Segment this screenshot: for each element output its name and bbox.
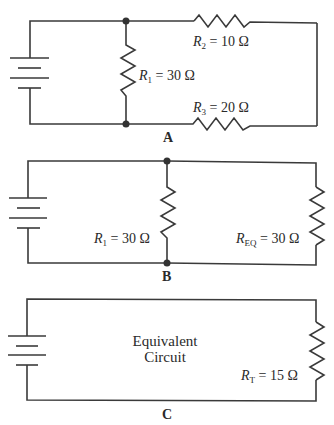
resistor-rt bbox=[310, 322, 324, 380]
node-b-bottom bbox=[164, 260, 171, 267]
resistor-r1-b bbox=[161, 161, 175, 263]
label-r2: R2 = 10 Ω bbox=[193, 35, 249, 51]
node-b-top bbox=[164, 158, 171, 165]
label-req: REQ = 30 Ω bbox=[236, 232, 299, 248]
battery-b bbox=[9, 198, 47, 228]
battery-c bbox=[8, 336, 46, 365]
resistor-r3 bbox=[126, 118, 317, 130]
panel-label-c: C bbox=[162, 408, 172, 422]
label-rt: RT = 15 Ω bbox=[241, 369, 298, 385]
panel-label-b: B bbox=[162, 270, 171, 284]
label-r1-b: R1 = 30 Ω bbox=[94, 232, 150, 248]
circuit-b bbox=[9, 158, 324, 267]
resistor-req bbox=[310, 187, 324, 245]
panel-label-a: A bbox=[163, 131, 173, 145]
resistor-r1-a bbox=[121, 21, 135, 124]
label-r1-a: R1 = 30 Ω bbox=[139, 69, 195, 85]
label-r3: R3 = 20 Ω bbox=[193, 101, 249, 117]
node-a-top bbox=[123, 18, 130, 25]
equivalent-circuit-caption: Equivalent Circuit bbox=[120, 334, 210, 366]
resistor-r2 bbox=[194, 15, 317, 27]
node-a-bottom bbox=[123, 121, 130, 128]
battery-a bbox=[10, 58, 49, 88]
